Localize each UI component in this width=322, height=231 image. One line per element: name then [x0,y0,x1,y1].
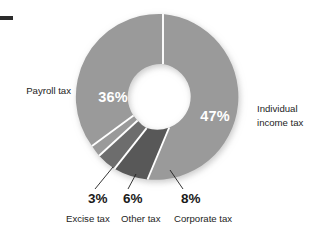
callout-value-other: 6% [123,191,143,206]
callout-value-corporate: 8% [181,191,201,206]
slice-value-payroll: 36% [98,89,128,105]
leader-excise [95,167,113,189]
label-individual-income-tax-line1: Individual [257,103,298,114]
label-individual-income-tax-line2: income tax [257,117,304,128]
callout-label-corporate-tax: Corporate tax [174,213,232,224]
callout-value-excise: 3% [88,191,108,206]
donut-chart-figure: 36% 47% Payroll tax Individual income ta… [0,0,322,231]
slice-value-individual: 47% [200,108,230,124]
tax-revenue-donut-chart: 36% 47% Payroll tax Individual income ta… [0,0,322,231]
label-payroll-tax: Payroll tax [26,85,71,96]
callout-label-other-tax: Other tax [121,213,161,224]
callout-label-excise-tax: Excise tax [66,213,110,224]
